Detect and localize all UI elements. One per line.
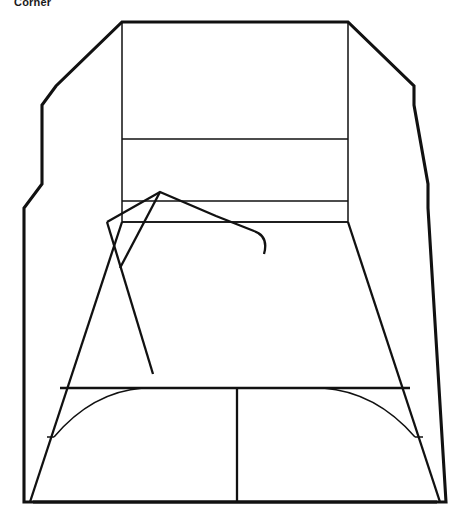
left-quarter-arc <box>54 388 143 437</box>
right-quarter-arc <box>323 388 415 437</box>
outer-silhouette-path <box>24 22 446 502</box>
floor-right-edge-line <box>348 222 440 502</box>
annotation-scribble-tail <box>107 222 153 374</box>
back-wall-rect-path <box>122 22 348 222</box>
corner-line-drawing <box>0 0 470 522</box>
floor-left-edge-line <box>30 222 122 502</box>
figure-canvas: Corner <box>0 0 470 522</box>
